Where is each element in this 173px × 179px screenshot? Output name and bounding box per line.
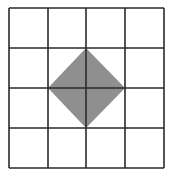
grid-diagram — [0, 0, 173, 179]
